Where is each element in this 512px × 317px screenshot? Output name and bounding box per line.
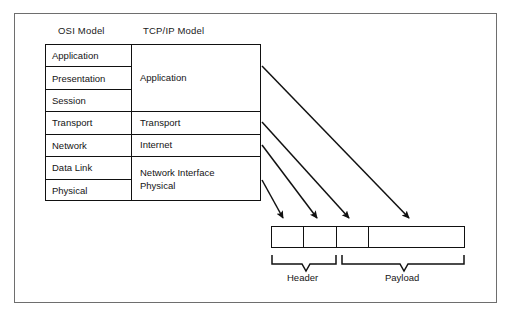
osi-layer-presentation: Presentation	[46, 67, 131, 89]
tcpip-layer-internet: Internet	[132, 135, 260, 157]
header-brace-label: Header	[287, 272, 318, 283]
tcpip-model-column: Application Transport Internet Network I…	[132, 45, 260, 200]
osi-layer-transport: Transport	[46, 112, 131, 134]
packet-bar	[271, 226, 465, 248]
layer-stack-table: Application Presentation Session Transpo…	[45, 44, 261, 201]
packet-header-field-1	[272, 227, 304, 247]
tcpip-model-heading: TCP/IP Model	[143, 25, 204, 36]
osi-layer-application: Application	[46, 45, 131, 67]
packet-header-field-2	[304, 227, 337, 247]
tcpip-layer-application: Application	[132, 45, 260, 112]
tcpip-layer-transport: Transport	[132, 112, 260, 134]
osi-model-column: Application Presentation Session Transpo…	[46, 45, 132, 200]
diagram-canvas: OSI Model TCP/IP Model Application Prese…	[0, 0, 512, 317]
packet-header-field-3	[337, 227, 369, 247]
osi-model-heading: OSI Model	[58, 25, 105, 36]
packet-payload-field	[369, 227, 464, 247]
tcpip-layer-network-interface-physical: Network Interface Physical	[132, 157, 260, 202]
osi-layer-data-link: Data Link	[46, 157, 131, 179]
osi-layer-network: Network	[46, 135, 131, 157]
osi-layer-session: Session	[46, 90, 131, 112]
osi-layer-physical: Physical	[46, 180, 131, 202]
payload-brace-label: Payload	[385, 272, 419, 283]
